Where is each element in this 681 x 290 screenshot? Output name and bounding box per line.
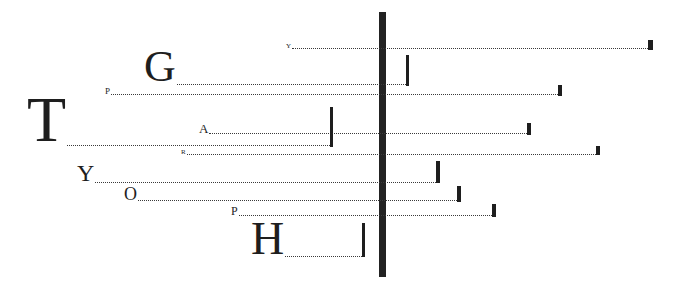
letter-label: P (231, 205, 238, 217)
dotted-leader-line (285, 256, 362, 257)
letter-label: G (144, 45, 176, 89)
end-tick-bar (362, 223, 365, 257)
dotted-leader-line (95, 182, 436, 183)
dotted-leader-line (209, 133, 527, 134)
letter-label: R (181, 149, 186, 156)
letter-label: T (27, 88, 66, 152)
dotted-leader-line (111, 94, 558, 95)
end-tick-bar (596, 146, 600, 155)
dotted-leader-line (67, 145, 330, 146)
dotted-leader-line (187, 154, 596, 155)
end-tick-bar (527, 123, 531, 135)
end-tick-bar (648, 40, 653, 50)
letter-label: Y (77, 161, 94, 185)
letter-bar-diagram: YGPATRYOPH (0, 0, 681, 290)
dotted-leader-line (292, 48, 648, 49)
letter-label: P (105, 87, 110, 96)
end-tick-bar (406, 55, 409, 86)
center-vertical-axis (379, 12, 386, 277)
end-tick-bar (330, 107, 333, 147)
end-tick-bar (436, 161, 440, 183)
letter-label: Y (286, 43, 291, 50)
letter-label: A (199, 122, 208, 135)
letter-label: O (124, 185, 137, 203)
letter-label: H (251, 216, 284, 262)
dotted-leader-line (138, 200, 457, 201)
end-tick-bar (558, 85, 562, 96)
dotted-leader-line (177, 84, 406, 85)
end-tick-bar (457, 186, 461, 202)
end-tick-bar (492, 204, 496, 217)
